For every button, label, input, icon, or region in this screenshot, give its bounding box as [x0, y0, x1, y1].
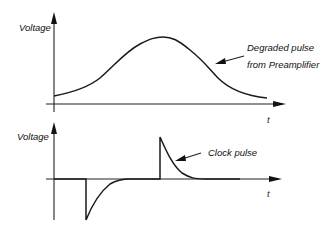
top-y-axis-label: Voltage — [19, 22, 51, 33]
degraded-pulse-label-line2: from Preamplifier — [247, 59, 320, 70]
bottom-panel: Voltage t Clock pulse — [17, 122, 282, 220]
bottom-x-axis-arrow-icon — [269, 176, 282, 182]
top-y-axis-arrow-icon — [51, 12, 57, 24]
clock-pulse-pointer-arrow-icon — [175, 155, 186, 161]
pulse-diagram: Voltage t Degraded pulse from Preamplifi… — [0, 0, 335, 229]
bottom-x-axis-label: t — [267, 188, 270, 199]
degraded-pulse-curve — [54, 37, 267, 98]
top-x-axis-arrow-icon — [273, 101, 286, 107]
degraded-pulse-label-line1: Degraded pulse — [247, 42, 314, 53]
top-x-axis-label: t — [267, 114, 270, 125]
bottom-y-axis-arrow-icon — [51, 122, 57, 134]
bottom-y-axis-label: Voltage — [17, 131, 49, 142]
degraded-pulse-pointer-arrow-icon — [215, 58, 226, 64]
top-panel: Voltage t Degraded pulse from Preamplifi… — [19, 12, 320, 125]
clock-pulse-label: Clock pulse — [208, 147, 257, 158]
